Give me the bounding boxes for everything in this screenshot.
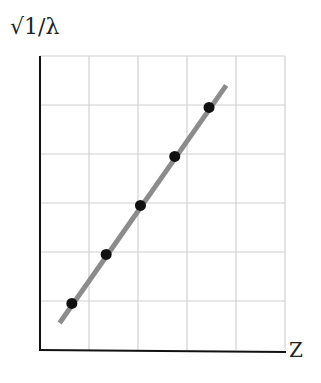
data-point: [204, 102, 215, 113]
data-point: [101, 249, 112, 260]
x-axis: [39, 350, 286, 352]
data-point: [66, 298, 77, 309]
data-point: [135, 200, 146, 211]
data-point: [169, 151, 180, 162]
plot-area: [0, 0, 321, 383]
